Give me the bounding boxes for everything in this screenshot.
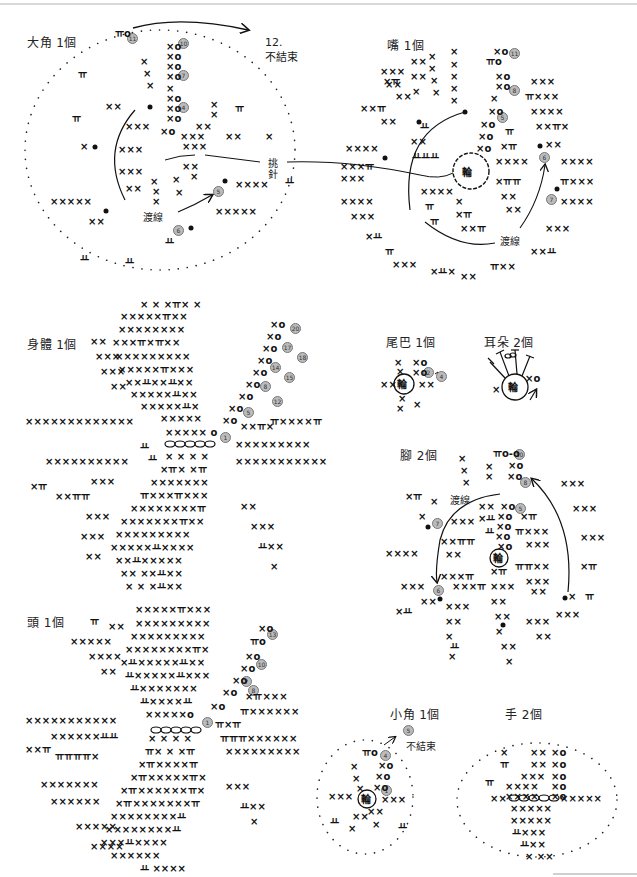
svg-text:×o: ×o	[222, 415, 237, 426]
svg-text:×: ×	[152, 196, 160, 207]
svg-text:ㅠ×××: ㅠ×××	[560, 176, 594, 187]
svg-text:×o: ×o	[238, 391, 253, 402]
svg-text:ㅠㅠㅠ××××××: ㅠㅠㅠ××××××	[220, 733, 297, 744]
foot-chart: 輪 ㅠo-o×o×o ××××× ×o×o×o×o×o ×××ㅛㅛ ×ㅠ×× ×…	[385, 448, 605, 667]
svg-text:×××: ×××	[225, 781, 250, 792]
svg-text:××××××××ㅛ: ××××××××ㅛ	[110, 811, 186, 822]
svg-text:×××××ㅛ×: ×××××ㅛ×	[140, 401, 199, 412]
svg-text:×××××o: ×××××o	[145, 709, 194, 720]
svg-text:ㅛ: ㅛ	[285, 176, 294, 187]
svg-text:×ㅠ: ×ㅠ	[520, 511, 537, 522]
svg-text:×: ×	[190, 171, 198, 182]
svg-text:×: ×	[210, 99, 218, 110]
svg-text:×ㅛ×××××ㅛ××: ×ㅛ×××××ㅛ××	[120, 657, 205, 668]
svg-text:××: ××	[110, 381, 127, 392]
hand-chart: ××××o ㅠ×××o ××××o ㅠ×××××o ×××××o ×××××××…	[457, 743, 617, 862]
svg-text:×o: ×o	[476, 143, 491, 154]
svg-text:××××××××ㅠ: ××××××××ㅠ	[130, 503, 206, 514]
svg-text:×××××: ×××××	[510, 815, 552, 826]
svg-text:×o: ×o	[252, 367, 267, 378]
svg-text:××: ××	[500, 641, 517, 652]
svg-text:××: ××	[418, 379, 435, 390]
svg-text:××ㅛ×××××: ××ㅛ×××××	[115, 555, 183, 566]
svg-text:ㅠ: ㅠ	[235, 103, 244, 114]
svg-text:×ㅛ×: ×ㅛ×	[430, 266, 456, 277]
svg-text:××: ××	[530, 586, 547, 597]
svg-text:××××××ㅛㅛ: ××××××ㅛㅛ	[50, 731, 118, 742]
svg-text:×: ×	[460, 465, 468, 476]
svg-text:×××: ×××	[80, 531, 105, 542]
svg-text:ㅛ×××××××: ㅛ×××××××	[130, 683, 198, 694]
svg-text:×: ×	[450, 71, 458, 82]
svg-text:ㅛ ××××: ㅛ ××××	[140, 863, 186, 874]
svg-text:××: ××	[494, 611, 511, 622]
svg-text:××: ××	[125, 183, 142, 194]
svg-text:ㅠo-o: ㅠo-o	[493, 448, 520, 459]
svg-text:× × ×ㅠ× ×: × × ×ㅠ× ×	[140, 299, 201, 310]
svg-text:×××ㅠ: ×××ㅠ	[340, 161, 374, 172]
svg-text:××: ××	[420, 596, 437, 607]
svg-text:×××: ×××	[95, 351, 120, 362]
svg-text:ㅠ××××××: ㅠ××××××	[240, 706, 299, 717]
svg-text:×ㅠ: ×ㅠ	[455, 209, 472, 220]
svg-text:ㅠ: ㅠ	[385, 246, 394, 257]
svg-text:輪: 輪	[493, 552, 504, 564]
svg-text:ㅠ: ㅠ	[430, 216, 439, 227]
svg-text:×: ×	[500, 747, 508, 758]
svg-text:輪: 輪	[397, 378, 408, 390]
svg-text:××: ××	[500, 191, 517, 202]
svg-text:××××: ××××	[345, 143, 379, 154]
svg-text:×××: ×××	[381, 794, 406, 805]
svg-text:×××××ㅠ××: ×××××ㅠ××	[120, 311, 188, 322]
svg-text:××××××××ㅠ×: ××××××××ㅠ×	[125, 644, 209, 655]
svg-text:×××: ×××	[118, 144, 143, 155]
svg-text:×: ×	[450, 95, 458, 106]
svg-text:ㅛ××: ㅛ××	[258, 541, 284, 552]
svg-text:ㅛ: ㅛ	[148, 453, 157, 464]
svg-text:×××××××××××××: ×××××××××××××	[25, 416, 134, 427]
svg-text:×o: ×o	[245, 651, 260, 662]
svg-text:× ××: × ××	[525, 851, 554, 862]
svg-text:××××××: ××××××	[50, 796, 100, 807]
svg-text:ㅛㅛㅛ: ㅛㅛㅛ	[412, 151, 439, 162]
svg-text:×o: ×o	[478, 131, 493, 142]
svg-text:××: ××	[105, 101, 122, 112]
svg-text:輪: 輪	[462, 166, 473, 178]
svg-text:×: ×	[413, 399, 421, 410]
svg-text:×o: ×o	[160, 126, 175, 137]
svg-text:×o: ×o	[258, 623, 273, 634]
svg-text:×××: ×××	[350, 211, 375, 222]
svg-text:×o: ×o	[378, 760, 393, 771]
svg-text:×ㅠ: ×ㅠ	[30, 481, 47, 492]
svg-text:×ㅠ××××ㅠ: ×ㅠ××××ㅠ	[138, 759, 198, 770]
svg-text:××: ××	[410, 136, 427, 147]
svg-text:×××××××××: ×××××××××	[115, 529, 190, 540]
svg-text:××××: ××××	[530, 106, 564, 117]
svg-text:×: ×	[412, 86, 420, 97]
svg-text:×××××××××: ×××××××××	[235, 439, 310, 450]
svg-text:×: ×	[428, 63, 436, 74]
svg-text:××: ××	[367, 806, 384, 817]
svg-text:×o: ×o	[497, 541, 512, 552]
svg-text:×ㅠ: ×ㅠ	[580, 561, 597, 572]
svg-text:×o: ×o	[488, 106, 503, 117]
svg-text:××: ××	[88, 216, 105, 227]
svg-text:×: ×	[458, 453, 466, 464]
svg-text:×: ×	[265, 131, 273, 142]
svg-text:ㅛ××××ㅛ: ㅛ××××ㅛ	[140, 696, 192, 707]
svg-text:××××: ××××	[385, 548, 419, 559]
svg-text:××××: ××××	[420, 186, 454, 197]
svg-text:ㅛ: ㅛ	[165, 236, 174, 247]
svg-text:ㅠ××: ㅠ××	[490, 261, 516, 272]
svg-text:×o: ×o	[525, 373, 540, 384]
svg-text:××ㅠㅠ: ××ㅠㅠ	[440, 536, 475, 547]
svg-text:××: ××	[410, 56, 427, 67]
svg-text:××××: ××××	[340, 196, 374, 207]
svg-text:×: ×	[146, 80, 154, 91]
svg-text:ㅠ: ㅠ	[72, 113, 81, 124]
svg-text:輪: 輪	[361, 793, 372, 805]
svg-text:××: ××	[380, 116, 397, 127]
svg-text:×: ×	[348, 823, 356, 834]
svg-text:××××× o: ××××× o	[165, 427, 217, 438]
svg-text:×: ×	[143, 68, 151, 79]
